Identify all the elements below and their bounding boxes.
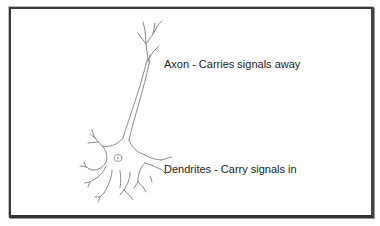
dendrites-label: Dendrites - Carry signals in <box>164 163 297 175</box>
neuron-illustration-icon <box>0 0 380 226</box>
axon-label: Axon - Carries signals away <box>164 58 300 70</box>
